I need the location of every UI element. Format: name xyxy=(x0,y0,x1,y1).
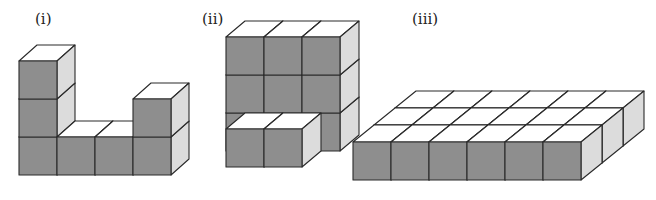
cube-front-face xyxy=(264,75,302,113)
cube-front-face xyxy=(133,99,171,137)
figure-3 xyxy=(353,91,644,180)
figure-1 xyxy=(19,45,189,175)
cube-front-face xyxy=(429,142,467,180)
cube-front-face xyxy=(19,61,57,99)
cube-front-face xyxy=(467,142,505,180)
cube-front-face xyxy=(353,142,391,180)
cube-front-face xyxy=(226,129,264,167)
cube-front-face xyxy=(226,37,264,75)
cube-front-face xyxy=(264,129,302,167)
cube-front-face xyxy=(226,75,264,113)
cube-front-face xyxy=(391,142,429,180)
cube-front-face xyxy=(19,137,57,175)
cube-front-face xyxy=(264,37,302,75)
cube-front-face xyxy=(543,142,581,180)
cube-front-face xyxy=(19,99,57,137)
cube-figures xyxy=(0,0,656,200)
cube-front-face xyxy=(505,142,543,180)
cube-front-face xyxy=(302,75,340,113)
cube-front-face xyxy=(95,137,133,175)
figure-2 xyxy=(226,21,359,167)
cube-front-face xyxy=(57,137,95,175)
cube-front-face xyxy=(302,37,340,75)
cube-front-face xyxy=(133,137,171,175)
